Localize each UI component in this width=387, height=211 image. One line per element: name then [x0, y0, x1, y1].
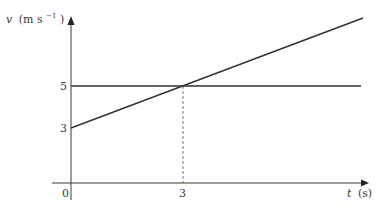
y-tick-3: 3 — [60, 122, 67, 135]
x-tick-3: 3 — [179, 187, 186, 200]
velocity-time-graph: v (m s −1 ) 5 3 0 3 t (s) — [0, 0, 387, 211]
origin-label: 0 — [62, 187, 69, 200]
y-axis-arrow-icon — [68, 16, 75, 25]
acceleration-line — [71, 18, 363, 128]
x-axis-label: t (s) — [347, 187, 372, 200]
y-tick-5: 5 — [60, 80, 67, 93]
x-axis-arrow-icon — [361, 180, 369, 187]
y-axis-label: v (m s −1 ) — [6, 8, 64, 26]
